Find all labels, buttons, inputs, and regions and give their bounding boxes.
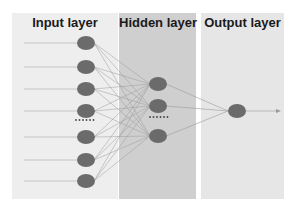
output-arrowhead (276, 109, 281, 113)
hidden-nodes (149, 77, 167, 143)
input-nodes (77, 36, 95, 188)
output-nodes (228, 104, 246, 118)
hidden-output-connections (166, 84, 276, 136)
input-hidden-connections (94, 43, 150, 181)
input-arrows (24, 43, 78, 181)
network-graph (0, 0, 298, 209)
